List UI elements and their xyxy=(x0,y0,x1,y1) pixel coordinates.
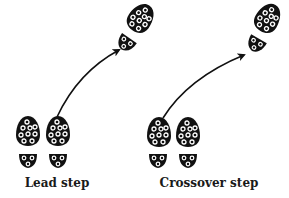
shoe-sole-icon xyxy=(250,0,286,37)
shoe-heel-icon xyxy=(179,154,197,168)
crossover-left-foot-start xyxy=(147,117,171,168)
crossover-left-foot-end xyxy=(244,0,286,55)
lead-step-label: Lead step xyxy=(25,176,90,190)
shoe-heel-icon xyxy=(19,154,37,168)
crossover-step-arrow-icon xyxy=(163,55,244,118)
crossover-step-label: Crossover step xyxy=(160,176,259,190)
shoe-heel-icon xyxy=(49,154,67,168)
shoe-sole-icon xyxy=(176,117,200,147)
shoe-sole-icon xyxy=(46,116,70,146)
crossover-right-foot-start xyxy=(176,117,200,168)
lead-left-foot-start xyxy=(16,116,40,168)
shoe-sole-icon xyxy=(147,117,171,147)
shoe-sole-icon xyxy=(16,116,40,146)
lead-step-arrow-icon xyxy=(57,50,119,117)
shoe-heel-icon xyxy=(149,154,167,168)
footwork-diagram xyxy=(0,0,289,198)
lead-right-foot-start xyxy=(46,116,70,168)
shoe-sole-icon xyxy=(123,0,160,37)
lead-right-foot-end xyxy=(114,0,159,55)
shoe-heel-icon xyxy=(244,34,267,55)
lead-step-panel xyxy=(16,0,159,168)
crossover-step-panel xyxy=(147,0,286,168)
